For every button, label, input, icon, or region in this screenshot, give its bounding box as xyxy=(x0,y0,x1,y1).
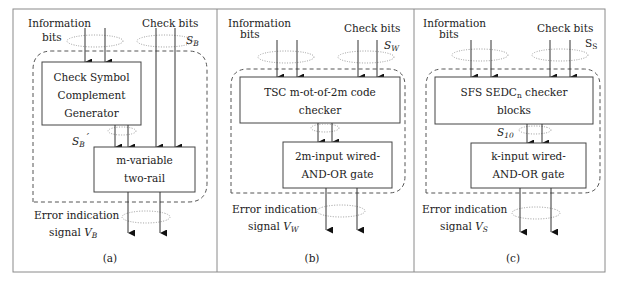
check-bits-label-c: Check bits xyxy=(537,22,593,34)
block-b2-text-1: 2m-input wired- xyxy=(295,150,381,162)
caption-b: (b) xyxy=(305,252,320,264)
block-a1-text-2: Complement xyxy=(58,89,127,101)
info-bus-ellipse-a xyxy=(67,35,123,47)
error-signal-label-b: signal VW xyxy=(248,220,300,234)
checker-architectures-diagram: Information bits Check bits SB Check Sym… xyxy=(0,0,618,283)
figure-frame xyxy=(13,9,605,272)
block-b2-text-2: AND-OR gate xyxy=(300,168,373,180)
information-bits-label-a: Information xyxy=(28,17,91,29)
check-bus-ellipse-b xyxy=(338,51,394,63)
output-bus-ellipse-c xyxy=(512,207,560,219)
panel-b: Information bits Check bits SW TSC m-ot-… xyxy=(228,17,405,264)
block-c2-text-1: k-input wired- xyxy=(491,150,566,162)
error-indication-label-c: Error indication xyxy=(422,203,508,215)
block-b1-text-2: checker xyxy=(299,104,342,116)
error-indication-label-b: Error indication xyxy=(232,203,318,215)
information-bits-label-c-line2: bits xyxy=(439,28,459,40)
mid-bus-ellipse-c xyxy=(519,126,551,134)
check-bus-ellipse-a xyxy=(137,35,193,47)
sfs-sedc-checker-blocks xyxy=(435,77,593,124)
output-bus-ellipse-b xyxy=(317,205,365,217)
block-b1-text-1: TSC m-ot-of-2m code xyxy=(264,86,376,98)
check-bits-label-b: Check bits xyxy=(344,22,400,34)
tsc-m-out-of-2m-checker-block xyxy=(240,77,400,123)
block-a2-text-1: m-variable xyxy=(116,154,173,166)
panel-c: Information bits Check bits SS SFS SEDCn… xyxy=(422,17,600,264)
mid-bus-ellipse-b xyxy=(311,124,339,132)
bus-label-sw: SW xyxy=(384,39,400,53)
bus-label-ss: SS xyxy=(585,37,597,51)
check-bus-ellipse-c xyxy=(532,49,588,61)
check-bits-label-a: Check bits xyxy=(142,17,198,29)
info-bus-ellipse-c xyxy=(452,49,508,61)
caption-c: (c) xyxy=(506,252,520,264)
bus-label-s10: S10 xyxy=(497,126,514,140)
error-signal-label-c: signal VS xyxy=(440,220,488,234)
information-bits-label-a-line2: bits xyxy=(42,31,62,43)
panel-a: Information bits Check bits SB Check Sym… xyxy=(28,17,207,264)
block-a1-text-1: Check Symbol xyxy=(53,71,130,83)
error-indication-label-a: Error indication xyxy=(34,209,120,221)
bus-label-sb-prime: SB′ xyxy=(72,131,90,149)
block-c2-text-2: AND-OR gate xyxy=(491,168,564,180)
output-bus-ellipse-a xyxy=(122,211,170,223)
2m-input-wired-and-or-gate-block xyxy=(283,142,392,188)
block-c1-text-1: SFS SEDCn checker xyxy=(461,86,569,100)
block-c1-text-2: blocks xyxy=(497,104,531,116)
info-bus-ellipse-b xyxy=(258,51,314,63)
block-a1-text-3: Generator xyxy=(64,107,119,119)
error-signal-label-a: signal VB xyxy=(49,226,98,240)
block-a2-text-2: two-rail xyxy=(124,172,166,184)
information-bits-label-b-line2: bits xyxy=(240,28,260,40)
caption-a: (a) xyxy=(103,252,117,264)
mid-bus-ellipse-a xyxy=(108,127,136,135)
